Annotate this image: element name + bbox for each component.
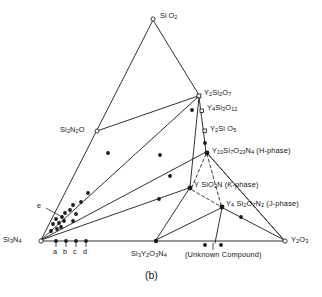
data-point (84, 239, 88, 243)
label-y4si3o12: Y4Si3O12 (207, 104, 237, 113)
data-point (71, 203, 75, 207)
axis-tick-label-d: d (83, 247, 87, 256)
data-point (86, 191, 90, 195)
axis-tick-group (56, 243, 86, 247)
data-point (79, 200, 83, 204)
data-point (63, 211, 67, 215)
data-point (62, 219, 66, 223)
data-point (54, 217, 58, 221)
compound-marker-si3y2o3n4 (154, 239, 158, 243)
vertex-marker-y2o3 (283, 239, 287, 243)
data-point (74, 212, 78, 216)
data-point (106, 151, 110, 155)
vertex-marker-sio2 (151, 17, 155, 21)
tie-line-si2n2o-y2si2o7 (97, 96, 198, 131)
compound-marker-y2sio5 (203, 129, 206, 132)
data-point (51, 222, 55, 226)
label-unknown-compound: (Unknown Compound) (185, 251, 262, 259)
data-point (59, 225, 63, 229)
label-e-point: e (37, 201, 41, 210)
label-si3n4: Si3N4 (3, 236, 22, 245)
compound-marker-y4si3o12 (200, 109, 203, 112)
label-y2si2o7: Y2Si2O7 (204, 89, 231, 98)
leader-line-e (46, 208, 62, 217)
label-sio2: Si O2 (160, 12, 177, 21)
label-k-phase: Y SiO2N (K-phase) (194, 181, 259, 190)
compound-marker-si2n2o (95, 129, 99, 133)
tie-line-sio2-y2si2o7 (153, 20, 199, 95)
compound-marker-kphase (188, 186, 193, 191)
data-point (158, 153, 162, 157)
tie-line-jphase-down (215, 208, 222, 243)
data-point (64, 239, 68, 243)
axis-tick-label-c: c (73, 247, 77, 256)
data-point (203, 141, 207, 145)
data-point (71, 219, 75, 223)
figure-caption: (b) (145, 269, 158, 281)
data-point (168, 174, 172, 178)
label-y2o3: Y2O3 (291, 236, 308, 245)
label-h-phase: Y10Si7O23N4 (H-phase) (212, 147, 291, 156)
data-point (54, 239, 58, 243)
data-point (157, 197, 161, 201)
tie-line-jphase-y2o3 (223, 208, 284, 240)
axis-tick-label-b: b (63, 247, 67, 256)
tie-line-jphase-si3y2o3n4 (156, 208, 221, 240)
dashed-tie-line-group (192, 154, 282, 238)
tie-line-kphase-jphase-dashed (192, 190, 220, 206)
data-point (57, 221, 61, 225)
vertex-marker-si3n4 (39, 239, 43, 243)
data-point (203, 243, 207, 247)
label-y2sio5: Y2Si O5 (210, 125, 236, 134)
label-si2n2o: Si2N2O (60, 126, 85, 135)
data-point (74, 239, 78, 243)
compound-marker-hphase (205, 151, 210, 156)
data-point (190, 108, 194, 112)
compound-marker-jphase (220, 205, 225, 210)
phase-diagram-figure: Si O2 Si2N2O Y2Si2O7 Y4Si3O12 Y2Si O5 Y1… (0, 0, 322, 297)
data-point (239, 215, 243, 219)
label-si3y2o3n4: Si3Y2O3N4 (131, 250, 167, 259)
axis-tick-label-a: a (53, 247, 57, 256)
data-point (55, 227, 59, 231)
data-point (68, 208, 72, 212)
label-j-phase: Y4 Si2O7N2 (J-phase) (226, 200, 299, 209)
data-point (219, 243, 223, 247)
compound-marker-y2si2o7 (197, 94, 201, 98)
data-point (49, 229, 53, 233)
